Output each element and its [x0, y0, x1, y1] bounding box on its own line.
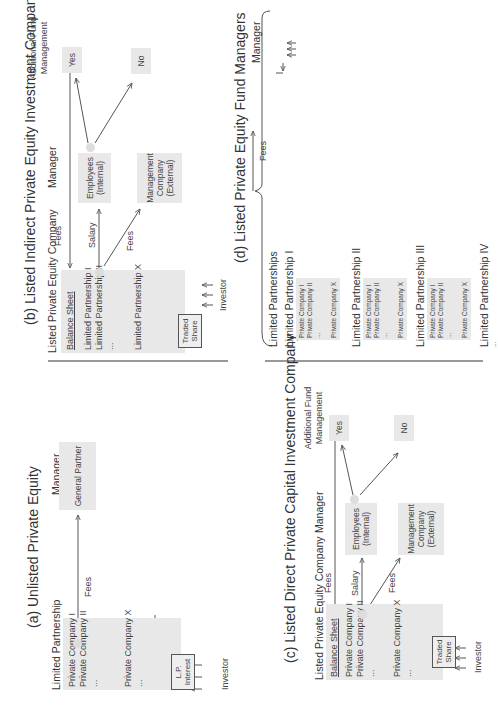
panel-a-node	[73, 639, 82, 648]
panel-b-traded-share: Traded Share	[178, 314, 202, 348]
panel-c-holding: Private Company I	[344, 603, 355, 677]
panel-b-balance-sheet: Balance Sheet	[65, 291, 76, 350]
panel-c-node	[358, 610, 367, 619]
panel-c-investor: Investor	[473, 641, 484, 673]
panel-c-holding: ...	[366, 669, 377, 677]
panel-d-lp4-name: Limited Partnership IV	[478, 244, 490, 347]
panel-c-title: (c) Listed Direct Private Capital Invest…	[282, 334, 298, 663]
panel-d-lp1-holding: Private Company II	[306, 283, 314, 338]
panel-c-decision-node	[350, 495, 359, 504]
panel-d-manager-header: Manager	[250, 22, 262, 63]
panel-b-yes: Yes	[62, 47, 82, 73]
panel-c-holding: ...	[403, 669, 414, 677]
panel-b-holding: Limited Partnership X	[133, 264, 144, 350]
panel-d-lp3-holding: Private Company I	[429, 285, 437, 338]
panel-b-no: No	[131, 48, 151, 74]
panel-b-salary: Salary	[87, 222, 98, 248]
panel-a-holding: ...	[89, 679, 100, 687]
panel-d-lp3-holding: Private Company X	[461, 282, 469, 338]
panel-d-lp3-holding: ...	[445, 333, 453, 338]
panel-b-fees-top: Fees	[53, 226, 64, 246]
panel-d-fees-label: Fees	[258, 141, 269, 161]
panel-d-lp4-ellipsis: ...	[490, 342, 498, 347]
panel-b-fees-low: Fees	[125, 231, 136, 251]
panel-a-title: (a) Unlisted Private Equity	[25, 466, 41, 628]
panel-c-additional-header: Additional Fund Management	[303, 383, 325, 453]
panel-c-fees-low: Fees	[387, 573, 398, 593]
panel-c-balance-sheet: Balance Sheet	[329, 618, 340, 677]
panel-c-holding: Private Company X	[392, 599, 403, 677]
panel-a-holding: Private Company I	[67, 613, 78, 687]
panel-c-no: No	[394, 415, 414, 441]
panel-c-yes: Yes	[329, 415, 349, 441]
panel-d-title: (d) Listed Private Equity Fund Managers	[232, 12, 248, 263]
panel-c-salary: Salary	[350, 570, 361, 596]
panel-b-employees: Employees (Internal)	[78, 153, 111, 203]
panel-c-employees: Employees (Internal)	[345, 503, 377, 555]
panel-b-holding: Limited Partnership I	[83, 267, 94, 350]
panel-a-holding: Private Company II	[78, 610, 89, 687]
panel-b-balance-box	[61, 270, 185, 353]
panel-d-lp2-holding: Private Company II	[373, 283, 381, 338]
panel-c-company-header: Listed Private Equity Company	[313, 536, 325, 680]
panel-c-traded-share: Traded Share	[432, 636, 456, 668]
panel-d-lp2-holding: ...	[381, 333, 389, 338]
panel-b-node	[95, 268, 104, 277]
panel-b-holding: ...	[105, 342, 116, 350]
panel-a-holding: Private Company X	[123, 609, 134, 687]
panel-a-general-partner: General Partner	[59, 442, 96, 510]
panel-c-fees-top: Fees	[323, 573, 334, 593]
panel-a-investor: Investor	[220, 658, 231, 690]
panel-d-lp3-name: Limited Partnership III	[414, 245, 426, 347]
panel-a-lp-header: Limited Partnership	[50, 600, 62, 690]
panel-b-management-company: Management Company (External)	[137, 153, 182, 203]
panel-b-additional-header: Additional Fund Management	[28, 13, 50, 83]
panel-d-lp1-holding: Private Company I	[298, 285, 306, 338]
panel-a-lp-interest: L.P. Interest	[171, 654, 195, 690]
panel-d-lp2-holding: Private Company X	[397, 282, 405, 338]
panel-d-lp2-name: Limited Partnership II	[350, 248, 362, 347]
panel-a-holding: ...	[134, 679, 145, 687]
panel-b-manager-header: Manager	[46, 147, 58, 188]
panel-d-lp1-name: Limited Partnership I	[283, 251, 295, 347]
panel-b-investor: Investor	[218, 279, 229, 311]
panel-d-lp2-holding: Private Company I	[365, 285, 373, 338]
panel-d-lp-header: Limited Partnerships	[267, 251, 279, 347]
panel-d-lp1-holding: Private Company X	[330, 282, 338, 338]
panel-b-decision-node	[86, 143, 95, 152]
panel-c-manager-header: Manager	[313, 492, 325, 533]
panel-d-lp1-holding: ...	[314, 333, 322, 338]
panel-b-holding: Limited Partnership II	[94, 265, 105, 350]
panel-d-lp3-holding: Private Company II	[437, 283, 445, 338]
panel-a-fees-label: Fees	[83, 577, 94, 597]
panel-c-management-company: Management Company (External)	[398, 503, 444, 555]
